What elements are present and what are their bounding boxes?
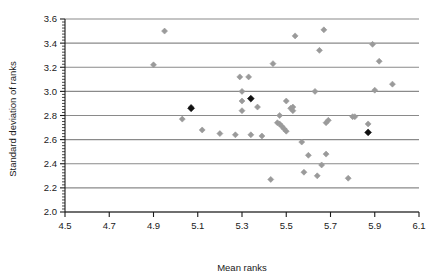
x-tick-label-5.1: 5.1 bbox=[191, 220, 204, 231]
y-tick-label-2.2: 2.2 bbox=[44, 182, 57, 193]
x-tick-label-5.5: 5.5 bbox=[280, 220, 293, 231]
y-tick-label-3.2: 3.2 bbox=[44, 62, 57, 73]
x-tick-label-5.7: 5.7 bbox=[324, 220, 337, 231]
y-tick-label-2.8: 2.8 bbox=[44, 110, 57, 121]
y-tick-label-3.4: 3.4 bbox=[44, 38, 57, 49]
y-axis-title: Standard deviation of ranks bbox=[7, 61, 18, 177]
y-tick-label-2.4: 2.4 bbox=[44, 158, 57, 169]
y-tick-label-2.0: 2.0 bbox=[44, 206, 57, 217]
x-tick-label-5.3: 5.3 bbox=[235, 220, 248, 231]
x-tick-label-4.7: 4.7 bbox=[103, 220, 116, 231]
x-tick-label-5.9: 5.9 bbox=[368, 220, 381, 231]
y-tick-label-3.6: 3.6 bbox=[44, 13, 57, 24]
x-tick-label-4.5: 4.5 bbox=[58, 220, 71, 231]
y-tick-label-2.6: 2.6 bbox=[44, 134, 57, 145]
x-tick-label-4.9: 4.9 bbox=[147, 220, 160, 231]
y-tick-label-3.0: 3.0 bbox=[44, 86, 57, 97]
scatter-plot-figure: 2.02.22.42.62.83.03.23.43.6 4.54.74.95.1… bbox=[0, 0, 434, 277]
x-tick-label-6.1: 6.1 bbox=[412, 220, 425, 231]
x-axis-title: Mean ranks bbox=[217, 262, 267, 273]
scatter-plot-svg: 2.02.22.42.62.83.03.23.43.6 4.54.74.95.1… bbox=[0, 0, 434, 277]
